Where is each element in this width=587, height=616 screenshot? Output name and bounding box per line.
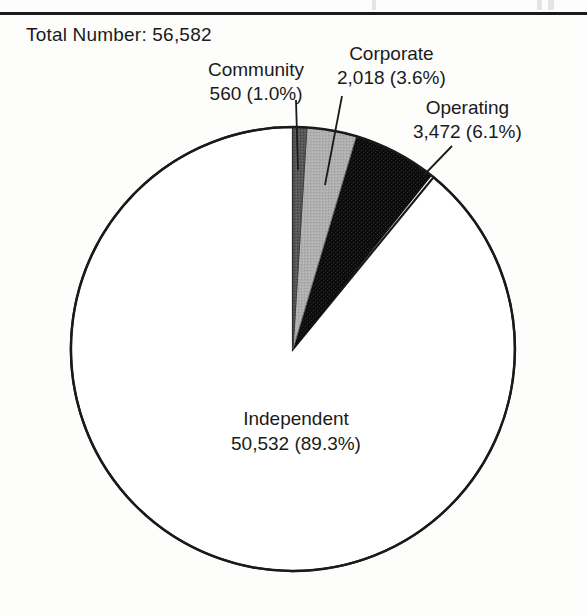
slice-label-community-value: 560 (1.0%) [208, 82, 304, 106]
slice-label-corporate: Corporate 2,018 (3.6%) [337, 42, 446, 90]
slice-label-operating-value: 3,472 (6.1%) [413, 120, 522, 144]
slice-label-independent-value: 50,532 (89.3%) [176, 431, 416, 456]
document-page: Total Number: 56,582 [0, 0, 587, 616]
slice-label-community: Community 560 (1.0%) [208, 58, 304, 106]
slice-label-operating-name: Operating [426, 97, 509, 118]
slice-label-independent-name: Independent [243, 408, 349, 429]
slice-label-corporate-name: Corporate [349, 43, 434, 64]
leader-line-operating [424, 146, 452, 175]
slice-label-operating: Operating 3,472 (6.1%) [413, 96, 522, 144]
slice-label-community-name: Community [208, 59, 304, 80]
slice-label-corporate-value: 2,018 (3.6%) [337, 66, 446, 90]
slice-label-independent: Independent 50,532 (89.3%) [176, 406, 416, 456]
